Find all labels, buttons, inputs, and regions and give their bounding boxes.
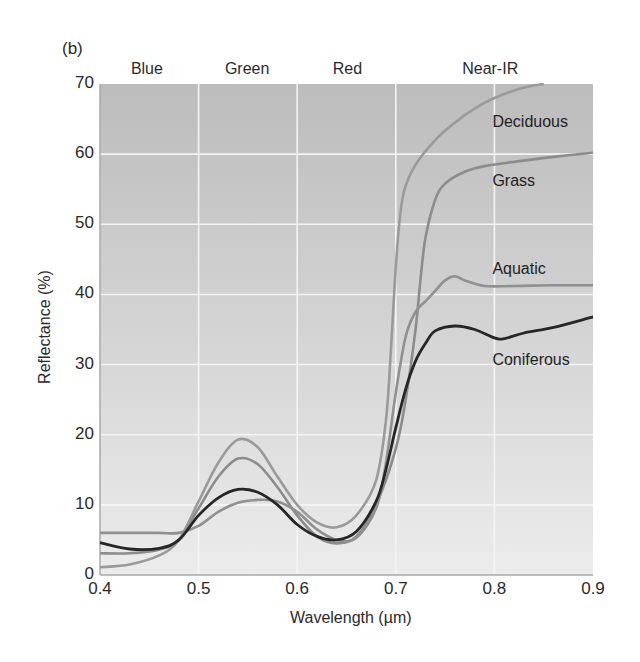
y-tick-label: 30 <box>54 354 94 374</box>
series-label-deciduous: Deciduous <box>492 113 568 131</box>
band-label-blue: Blue <box>131 60 163 78</box>
x-tick-label: 0.9 <box>568 579 618 599</box>
series-label-coniferous: Coniferous <box>492 351 569 369</box>
x-axis-label: Wavelength (µm) <box>290 609 412 627</box>
series-label-aquatic: Aquatic <box>492 260 545 278</box>
x-tick-label: 0.5 <box>174 579 224 599</box>
y-tick-label: 60 <box>54 143 94 163</box>
panel-label: (b) <box>62 39 83 59</box>
y-tick-label: 70 <box>54 73 94 93</box>
band-label-green: Green <box>225 60 269 78</box>
y-tick-label: 50 <box>54 213 94 233</box>
y-tick-label: 20 <box>54 424 94 444</box>
series-label-grass: Grass <box>492 172 535 190</box>
y-axis-label: Reflectance (%) <box>36 267 54 387</box>
band-label-near-ir: Near-IR <box>462 60 518 78</box>
x-tick-label: 0.8 <box>469 579 519 599</box>
x-tick-label: 0.6 <box>272 579 322 599</box>
y-tick-label: 10 <box>54 494 94 514</box>
band-label-red: Red <box>333 60 362 78</box>
reflectance-chart <box>0 0 640 662</box>
x-tick-label: 0.7 <box>371 579 421 599</box>
y-tick-label: 40 <box>54 283 94 303</box>
x-tick-label: 0.4 <box>75 579 125 599</box>
plot-area <box>100 84 593 575</box>
